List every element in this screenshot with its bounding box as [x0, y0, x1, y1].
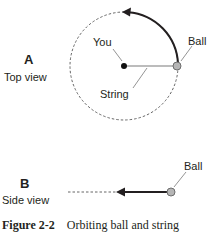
panel-b-letter: B: [20, 176, 29, 191]
you-dot: [121, 63, 127, 69]
figure-number: Figure 2-2: [2, 218, 55, 232]
motion-arc: [128, 12, 178, 64]
side-ball-label: Ball: [184, 160, 202, 172]
figure-caption-text: Orbiting ball and string: [67, 218, 179, 232]
ball-leader: [181, 46, 192, 61]
side-ball-icon: [167, 188, 175, 196]
you-leader: [113, 49, 122, 61]
panel-a-letter: A: [24, 52, 33, 67]
ball-icon: [173, 62, 181, 70]
side-arrowhead-icon: [116, 188, 125, 197]
figure-caption: Figure 2-2 Orbiting ball and string: [2, 215, 179, 232]
side-ball-leader: [174, 172, 186, 187]
ball-label: Ball: [188, 35, 206, 47]
you-label: You: [93, 36, 112, 48]
panel-b-caption: Side view: [2, 194, 49, 206]
arrowhead-icon: [122, 8, 131, 17]
panel-a-caption: Top view: [4, 71, 47, 83]
string-leader: [133, 68, 147, 88]
string-label: String: [100, 88, 129, 100]
